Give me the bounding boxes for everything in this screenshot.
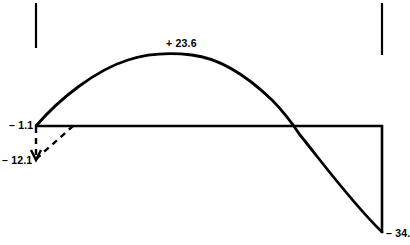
right-support-bottom-moment-label: – 34. (386, 228, 410, 239)
left-support-top-moment-label: – 1.1 (9, 120, 33, 131)
dashed-diagonal-branch (36, 126, 73, 159)
moment-curve-solid (36, 54, 382, 232)
peak-positive-moment-label: + 23.6 (166, 38, 197, 49)
left-support-bottom-moment-label: – 12.1 (2, 155, 32, 166)
